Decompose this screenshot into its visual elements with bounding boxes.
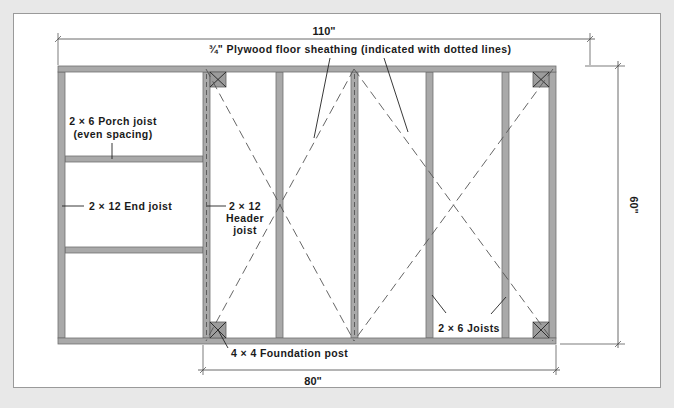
framing-plan-diagram: 110" 80" 60" — [0, 0, 674, 408]
label-porch-joist: 2 × 6 Porch joist (even spacing) — [69, 115, 157, 159]
post-top-left — [210, 72, 226, 87]
porch-joist-label-line1: 2 × 6 Porch joist — [69, 115, 157, 127]
joist-3 — [426, 72, 433, 338]
porch-joist-2 — [65, 247, 203, 253]
end-joist-label: 2 × 12 End joist — [89, 200, 172, 212]
label-sheathing: ¾" Plywood floor sheathing (indicated wi… — [209, 43, 512, 138]
dimension-80-label: 80" — [304, 375, 321, 387]
end-joist-left — [58, 72, 65, 338]
joists-label: 2 × 6 Joists — [438, 322, 500, 334]
label-end-joist: 2 × 12 End joist — [62, 200, 172, 212]
label-header-joist: 2 × 12 Header joist — [207, 200, 264, 236]
foundation-post-label: 4 × 4 Foundation post — [231, 347, 348, 359]
dimension-60-label: 60" — [628, 196, 640, 213]
dimension-60: 60" — [560, 61, 640, 348]
dimension-110-label: 110" — [313, 25, 336, 37]
header-joist-label-line3: joist — [232, 224, 257, 236]
porch-joist-label-line2: (even spacing) — [73, 128, 152, 140]
sheathing-label: ¾" Plywood floor sheathing (indicated wi… — [209, 43, 512, 55]
porch-joist-1 — [65, 156, 203, 162]
header-joist-label-line1: 2 × 12 — [229, 200, 261, 212]
rim-joist-top — [58, 66, 556, 72]
label-joists: 2 × 6 Joists — [432, 295, 506, 334]
rim-joist-bottom — [58, 338, 556, 344]
end-joist-right — [549, 72, 556, 338]
header-joist-label-line2: Header — [226, 212, 264, 224]
